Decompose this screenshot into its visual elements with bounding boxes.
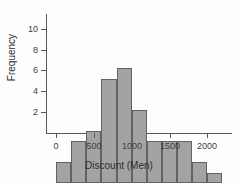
y-axis-tick-label: 6 [14,66,38,75]
x-axis-tick [56,133,57,138]
x-axis-tick [207,133,208,138]
x-axis-tick-label: 1000 [115,141,149,151]
x-axis-tick-label: 1500 [153,141,187,151]
x-axis-tick-label: 2000 [190,141,224,151]
y-axis-tick-label-wrap: 2 [12,112,38,113]
x-axis-tick-label: 0 [39,141,73,151]
y-axis-tick-label: 10 [14,25,38,34]
y-axis-tick [41,112,46,113]
y-axis-tick [41,50,46,51]
histogram-bar [86,131,101,183]
x-axis-title: Discount (Men) [0,160,238,171]
x-axis-tick-label: 500 [77,141,111,151]
bar-series [47,0,230,183]
histogram-figure: 246810 0500100015002000 Frequency Discou… [0,0,238,183]
x-axis-tick [170,133,171,138]
x-axis-tick [94,133,95,138]
y-axis-tick-label: 4 [14,87,38,96]
y-axis-tick [41,70,46,71]
x-axis-tick [132,133,133,138]
y-axis-tick-label: 8 [14,46,38,55]
y-axis-tick [41,29,46,30]
histogram-bar [207,173,222,183]
y-axis-title: Frequency [6,16,17,100]
y-axis-tick [41,91,46,92]
y-axis-tick-label: 2 [14,108,38,117]
